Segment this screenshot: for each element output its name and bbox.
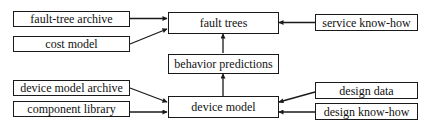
- node-component-library: component library: [13, 101, 130, 117]
- node-fault-trees: fault trees: [168, 12, 279, 34]
- node-design-data: design data: [315, 82, 418, 99]
- node-device-model: device model: [168, 96, 279, 118]
- node-fault-tree-archive: fault-tree archive: [13, 11, 130, 27]
- node-design-know-how: design know-how: [315, 103, 418, 120]
- node-behavior-predictions: behavior predictions: [168, 54, 279, 74]
- diagram-canvas: fault-tree archive cost model device mod…: [0, 0, 430, 128]
- node-cost-model: cost model: [13, 36, 130, 52]
- edge-design-data-to-device-model: [279, 92, 315, 102]
- edge-cost-model-to-fault-trees: [130, 29, 167, 44]
- edge-device-model-archive-to-device-model: [130, 88, 167, 102]
- node-service-know-how: service know-how: [315, 14, 418, 31]
- node-device-model-archive: device model archive: [13, 80, 130, 96]
